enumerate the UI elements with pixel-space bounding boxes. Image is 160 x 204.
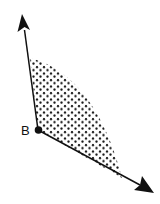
arrowhead-up-icon [18, 14, 31, 32]
vertex-label: B [21, 123, 30, 138]
arrowhead-down-right-icon [134, 176, 154, 193]
angle-diagram: B [0, 0, 160, 204]
vertex-point [35, 126, 43, 134]
